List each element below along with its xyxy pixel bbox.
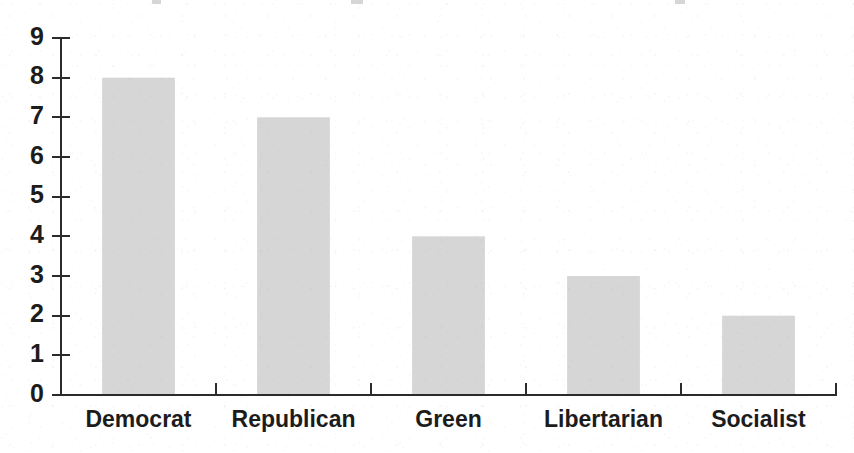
- bars-group: [102, 78, 795, 395]
- y-tick-label-2: 2: [30, 299, 44, 327]
- y-tick-label-1: 1: [30, 339, 44, 367]
- x-axis-label-democrat: Democrat: [85, 406, 191, 432]
- scan-artifact-mark: [675, 0, 685, 4]
- x-axis-label-socialist: Socialist: [711, 406, 806, 432]
- x-axis-label-green: Green: [415, 406, 481, 432]
- scan-artifact-mark: [351, 0, 363, 4]
- y-tick-label-8: 8: [30, 61, 44, 89]
- scan-artifact-mark: [152, 0, 161, 4]
- y-tick-label-7: 7: [30, 101, 44, 129]
- y-tick-label-9: 9: [30, 22, 44, 50]
- y-axis-ticks: 0123456789: [30, 22, 70, 407]
- x-axis-label-republican: Republican: [232, 406, 356, 432]
- x-axis-labels: DemocratRepublicanGreenLibertarianSocial…: [85, 406, 806, 432]
- bar-democrat: [102, 78, 175, 395]
- y-tick-label-5: 5: [30, 180, 44, 208]
- bar-socialist: [722, 316, 795, 395]
- chart-canvas: 0123456789 DemocratRepublicanGreenLibert…: [0, 0, 854, 453]
- bar-libertarian: [567, 276, 640, 395]
- bar-chart: 0123456789 DemocratRepublicanGreenLibert…: [0, 0, 854, 453]
- y-tick-label-0: 0: [30, 379, 44, 407]
- bar-green: [412, 236, 485, 395]
- y-tick-label-4: 4: [30, 220, 44, 248]
- x-axis-label-libertarian: Libertarian: [544, 406, 663, 432]
- y-tick-label-6: 6: [30, 141, 44, 169]
- bar-republican: [257, 117, 330, 395]
- y-tick-label-3: 3: [30, 260, 44, 288]
